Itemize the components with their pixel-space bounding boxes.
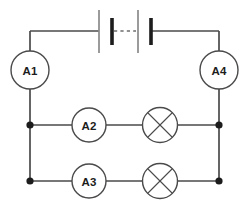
junction-nodes: [26, 121, 222, 184]
ammeter-label: A4: [211, 65, 227, 77]
circuit-schematic: A1 A4 A2 A3: [0, 0, 249, 210]
wire-network: [30, 31, 219, 181]
ammeter-label: A1: [22, 65, 38, 77]
ammeter-label: A3: [81, 176, 96, 188]
junction-dot-upper-left: [26, 121, 33, 128]
ammeter-A1: A1: [11, 51, 49, 89]
ammeter-A2: A2: [72, 108, 106, 142]
battery-symbol: [99, 10, 151, 53]
ammeter-label: A2: [81, 120, 96, 132]
junction-dot-lower-right: [215, 177, 222, 184]
ammeter-A4: A4: [200, 51, 238, 89]
circuit-diagram-canvas: A1 A4 A2 A3: [0, 0, 249, 210]
ammeter-A3: A3: [72, 164, 106, 198]
lamp-lower: [143, 164, 178, 199]
lamp-upper: [143, 108, 178, 143]
junction-dot-lower-left: [26, 177, 33, 184]
junction-dot-upper-right: [215, 121, 222, 128]
